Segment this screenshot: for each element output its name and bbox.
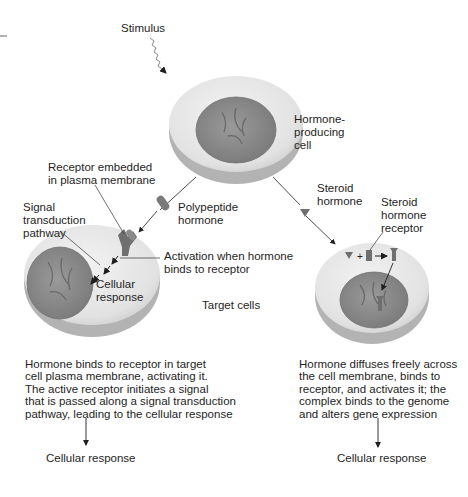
right-description: Hormone diffuses freely across the cell … [299,358,457,420]
signal-transduction-pathway-label: Signal transduction pathway [23,201,86,240]
hormone-producing-cell-label: Hormone- producing cell [294,113,345,152]
activation-label: Activation when hormone binds to recepto… [164,250,293,276]
steroid-receptor-icon [366,250,372,261]
nucleus [196,97,276,163]
nucleus [340,272,408,328]
right-outcome-label: Cellular response [337,452,427,465]
stimulus-label: Stimulus [121,22,165,35]
secretion-line-right [273,177,300,205]
polypeptide-arrow [139,211,157,232]
hormone-producing-cell [169,76,303,184]
steroid-arrow [306,216,335,244]
polypeptide-hormone-icon [155,194,171,212]
steroid-hormone-receptor-label: Steroid hormone receptor [381,196,426,235]
target-cells-label: Target cells [202,299,260,312]
polypeptide-hormone-label: Polypeptide hormone [178,201,238,227]
diagram-artwork: + [0,0,468,497]
nucleus [27,247,93,319]
svg-text:+: + [357,251,363,262]
steroid-hormone-icon [300,209,310,217]
cellular-response-inner-label: Cellular response [96,278,143,304]
left-outcome-label: Cellular response [46,452,136,465]
left-description: Hormone binds to receptor in target cell… [25,358,236,420]
receptor-embedded-label: Receptor embedded in plasma membrane [48,161,155,187]
steroid-hormone-label: Steroid hormone [317,182,362,208]
stimulus-wavy-arrow [150,38,166,73]
